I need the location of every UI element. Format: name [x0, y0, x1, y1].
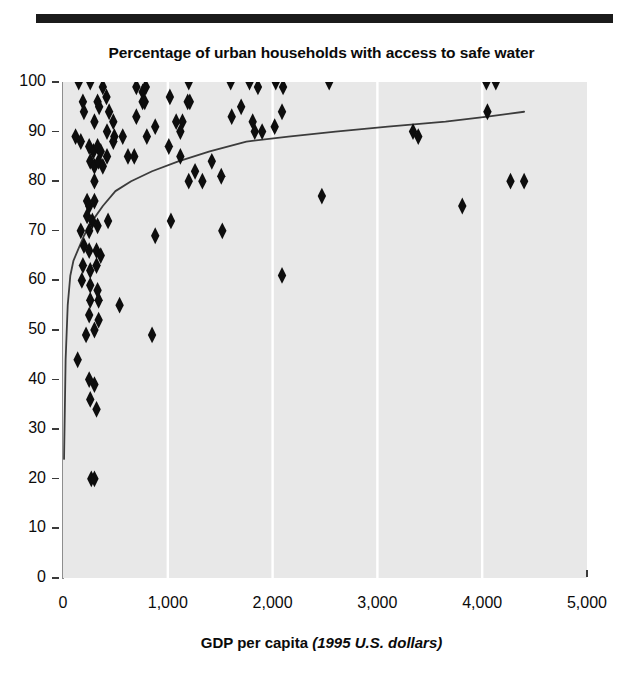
figure-container: Percentage of urban households with acce… [0, 0, 643, 685]
data-point-marker [254, 82, 262, 95]
data-point-marker [119, 128, 127, 145]
data-point-marker [185, 82, 193, 90]
x-tick-label: 4,000 [447, 594, 517, 612]
x-tick-label: 0 [28, 594, 98, 612]
data-point-marker [78, 272, 86, 289]
y-tick-label: 0 [4, 568, 46, 586]
top-rule-bar [36, 14, 613, 23]
scatter-plot-svg [63, 82, 587, 578]
data-point-marker [279, 82, 287, 95]
data-point-marker [75, 82, 83, 90]
data-point-marker [143, 128, 151, 145]
data-point-marker [151, 227, 159, 244]
y-tick-mark [52, 329, 59, 331]
data-point-marker [132, 108, 140, 125]
data-point-marker [73, 351, 81, 368]
data-point-marker [218, 222, 226, 239]
data-point-marker [104, 212, 112, 229]
data-point-marker [506, 173, 514, 190]
y-tick-label: 60 [4, 270, 46, 288]
x-axis-title-main: GDP per capita [201, 634, 308, 651]
data-point-marker [245, 82, 253, 90]
x-tick-label: 5,000 [552, 594, 622, 612]
data-point-marker [258, 123, 266, 140]
chart-title: Percentage of urban households with acce… [0, 44, 643, 62]
data-point-marker [191, 163, 199, 180]
x-axis-title: GDP per capita (1995 U.S. dollars) [0, 634, 643, 651]
y-tick-label: 50 [4, 320, 46, 338]
data-point-marker [103, 123, 111, 140]
data-point-marker [278, 103, 286, 120]
data-point-marker [492, 82, 500, 90]
data-point-marker [217, 168, 225, 185]
y-tick-label: 30 [4, 419, 46, 437]
x-axis-title-unit: (1995 U.S. dollars) [312, 634, 442, 651]
y-tick-label: 10 [4, 518, 46, 536]
plot-area [63, 82, 587, 578]
y-tick-label: 100 [4, 72, 46, 90]
y-tick-mark [52, 180, 59, 182]
y-tick-label: 20 [4, 469, 46, 487]
data-point-marker [198, 173, 206, 190]
data-point-marker [151, 118, 159, 135]
data-point-marker [208, 153, 216, 170]
y-tick-mark [52, 527, 59, 529]
y-tick-mark [52, 577, 59, 579]
data-point-marker [82, 327, 90, 344]
y-tick-label: 90 [4, 122, 46, 140]
data-point-marker [86, 82, 94, 90]
data-point-marker [148, 327, 156, 344]
data-point-marker [85, 307, 93, 324]
data-point-marker [228, 108, 236, 125]
y-tick-mark [52, 478, 59, 480]
data-point-marker [482, 82, 490, 90]
y-tick-mark [52, 379, 59, 381]
gridlines-group [168, 82, 482, 578]
data-point-marker [90, 173, 98, 190]
data-point-marker [79, 257, 87, 274]
data-point-marker [165, 138, 173, 155]
y-tick-mark [52, 81, 59, 83]
data-point-marker [318, 188, 326, 205]
x-tick-label: 3,000 [342, 594, 412, 612]
trendline-group [64, 112, 524, 459]
data-point-marker [92, 401, 100, 418]
data-point-marker [130, 148, 138, 165]
data-point-marker [226, 82, 234, 90]
data-markers-group [71, 82, 528, 487]
data-point-marker [90, 113, 98, 130]
data-point-marker [86, 292, 94, 309]
data-point-marker [520, 173, 528, 190]
y-tick-mark [52, 279, 59, 281]
data-point-marker [86, 277, 94, 294]
data-point-marker [325, 82, 333, 90]
y-tick-label: 70 [4, 221, 46, 239]
data-point-marker [115, 297, 123, 314]
data-point-marker [278, 267, 286, 284]
data-point-marker [237, 98, 245, 115]
y-tick-mark [52, 230, 59, 232]
data-point-marker [458, 198, 466, 215]
x-tick-label: 2,000 [238, 594, 308, 612]
y-tick-label: 40 [4, 370, 46, 388]
y-tick-mark [52, 428, 59, 430]
y-tick-mark [52, 131, 59, 133]
data-point-marker [185, 173, 193, 190]
x-tick-mark [586, 570, 588, 577]
y-tick-label: 80 [4, 171, 46, 189]
trendline [64, 112, 524, 459]
data-point-marker [86, 391, 94, 408]
x-tick-label: 1,000 [133, 594, 203, 612]
